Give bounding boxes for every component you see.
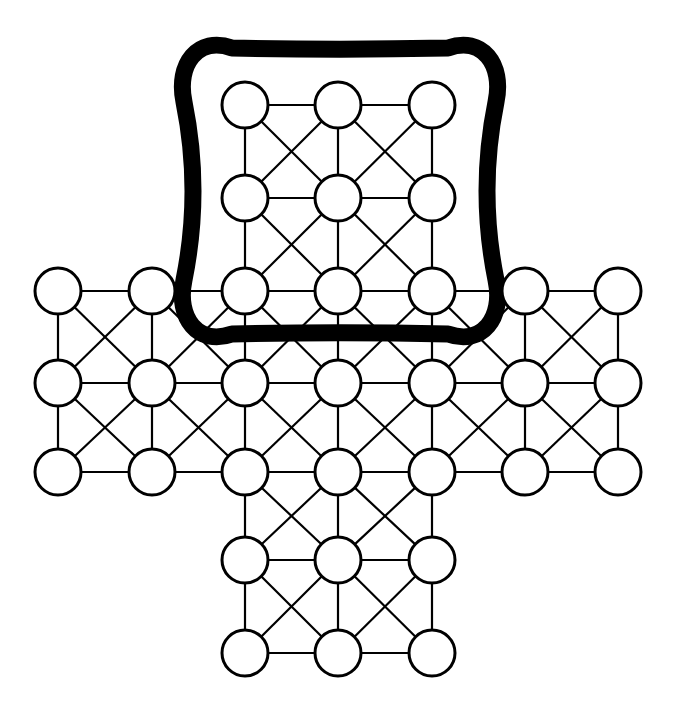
graph-node[interactable] xyxy=(315,630,361,676)
graph-node[interactable] xyxy=(129,449,175,495)
graph-node[interactable] xyxy=(35,360,81,406)
graph-node[interactable] xyxy=(222,537,268,583)
graph-node[interactable] xyxy=(35,268,81,314)
graph-node[interactable] xyxy=(35,449,81,495)
graph-node[interactable] xyxy=(502,268,548,314)
figure-root xyxy=(0,0,683,707)
graph-node[interactable] xyxy=(502,360,548,406)
graph-node[interactable] xyxy=(222,82,268,128)
graph-node[interactable] xyxy=(222,175,268,221)
graph-node[interactable] xyxy=(315,268,361,314)
graph-node[interactable] xyxy=(409,449,455,495)
graph-node[interactable] xyxy=(129,268,175,314)
graph-node[interactable] xyxy=(315,175,361,221)
graph-node[interactable] xyxy=(595,449,641,495)
graph-node[interactable] xyxy=(595,268,641,314)
graph-node[interactable] xyxy=(502,449,548,495)
graph-node[interactable] xyxy=(409,360,455,406)
graph-node[interactable] xyxy=(222,449,268,495)
graph-canvas xyxy=(0,0,683,707)
graph-node[interactable] xyxy=(222,360,268,406)
graph-node[interactable] xyxy=(315,537,361,583)
graph-node[interactable] xyxy=(315,360,361,406)
graph-node[interactable] xyxy=(315,82,361,128)
graph-node[interactable] xyxy=(409,175,455,221)
graph-node[interactable] xyxy=(409,82,455,128)
graph-node[interactable] xyxy=(409,630,455,676)
graph-node[interactable] xyxy=(409,268,455,314)
graph-node[interactable] xyxy=(409,537,455,583)
graph-node[interactable] xyxy=(595,360,641,406)
graph-node[interactable] xyxy=(222,268,268,314)
graph-node[interactable] xyxy=(129,360,175,406)
graph-node[interactable] xyxy=(315,449,361,495)
graph-node[interactable] xyxy=(222,630,268,676)
